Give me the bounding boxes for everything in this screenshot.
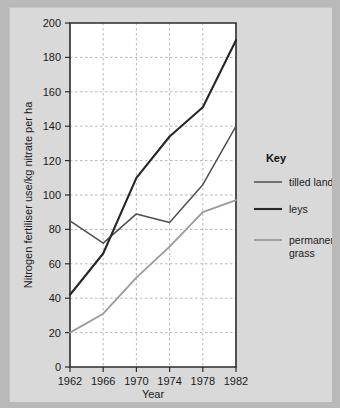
legend-title: Key: [266, 152, 287, 164]
y-tick-label: 100: [43, 189, 61, 201]
y-tick-label: 40: [49, 292, 61, 304]
y-tick-label: 120: [43, 155, 61, 167]
y-tick-label: 180: [43, 51, 61, 63]
x-tick-label: 1974: [157, 375, 181, 387]
x-tick-label: 1978: [191, 375, 215, 387]
figure-panel: 020406080100120140160180200 196219661970…: [9, 7, 331, 401]
line-chart: 020406080100120140160180200 196219661970…: [10, 8, 332, 402]
y-tick-label: 0: [55, 361, 61, 373]
x-tick-label: 1962: [58, 375, 82, 387]
x-tick-label: 1982: [224, 375, 248, 387]
y-tick-label: 200: [43, 17, 61, 29]
x-tick-label: 1966: [91, 375, 115, 387]
legend-label: leys: [289, 203, 308, 215]
y-tick-label: 60: [49, 258, 61, 270]
y-tick-label: 80: [49, 223, 61, 235]
y-axis-title: Nitrogen fertiliser use/kg nitrate per h…: [22, 101, 34, 288]
y-tick-label: 140: [43, 120, 61, 132]
y-tick-label: 160: [43, 86, 61, 98]
x-tick-label: 1970: [124, 375, 148, 387]
x-axis-title: Year: [142, 388, 165, 400]
legend-label-continued: grass: [289, 247, 315, 259]
legend-label: permanent: [289, 234, 332, 246]
y-tick-label: 20: [49, 327, 61, 339]
legend-label: tilled land: [289, 176, 332, 188]
